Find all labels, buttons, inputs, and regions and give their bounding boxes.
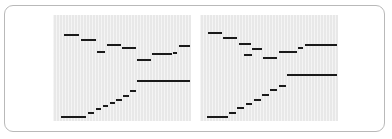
plot-area bbox=[53, 15, 191, 121]
step-segment bbox=[207, 116, 228, 118]
step-segment bbox=[173, 52, 177, 54]
step-segment bbox=[270, 89, 277, 91]
step-segment bbox=[246, 103, 253, 105]
figure-frame bbox=[4, 5, 385, 132]
step-segment bbox=[137, 80, 189, 82]
step-segment bbox=[237, 107, 244, 109]
step-segment bbox=[223, 37, 237, 39]
step-segment bbox=[116, 99, 122, 101]
step-segment bbox=[263, 57, 277, 59]
step-segment bbox=[61, 116, 86, 118]
step-segment bbox=[298, 47, 304, 49]
step-segment bbox=[107, 44, 121, 46]
step-segment bbox=[88, 112, 95, 114]
step-segment bbox=[179, 45, 190, 47]
step-segment bbox=[130, 90, 136, 92]
plot-area bbox=[200, 15, 338, 121]
step-segment bbox=[96, 108, 102, 110]
step-segment bbox=[122, 47, 136, 49]
step-segment bbox=[137, 59, 151, 61]
right-panel bbox=[200, 15, 338, 121]
step-segment bbox=[252, 48, 262, 50]
step-segment bbox=[239, 43, 251, 45]
step-segment bbox=[103, 105, 109, 107]
step-segment bbox=[279, 85, 286, 87]
step-segment bbox=[97, 51, 105, 53]
step-segment bbox=[279, 51, 297, 53]
step-segment bbox=[208, 32, 222, 34]
step-segment bbox=[152, 53, 171, 55]
step-segment bbox=[287, 74, 337, 76]
step-segment bbox=[262, 94, 269, 96]
step-segment bbox=[110, 102, 116, 104]
left-panel bbox=[53, 15, 191, 121]
step-segment bbox=[254, 99, 261, 101]
step-segment bbox=[64, 34, 79, 36]
step-segment bbox=[305, 44, 337, 46]
step-segment bbox=[229, 112, 236, 114]
step-segment bbox=[244, 54, 252, 56]
step-segment bbox=[81, 39, 96, 41]
step-segment bbox=[123, 95, 129, 97]
